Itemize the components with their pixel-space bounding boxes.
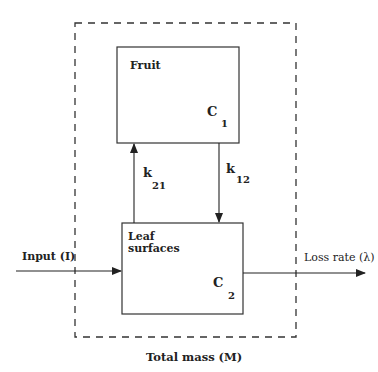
fruit-label: Fruit bbox=[130, 59, 161, 72]
leaf-symbol: C bbox=[213, 276, 223, 290]
total-mass-boundary bbox=[75, 23, 296, 337]
k12-index: 12 bbox=[236, 174, 250, 186]
fruit-index: 1 bbox=[221, 118, 228, 130]
total-mass-label: Total mass (M) bbox=[146, 351, 242, 364]
k21-symbol: k bbox=[143, 166, 152, 180]
leaf-label-line2: surfaces bbox=[128, 242, 180, 255]
k21-index: 21 bbox=[152, 180, 166, 192]
fruit-symbol: C bbox=[207, 105, 217, 119]
leaf-index: 2 bbox=[228, 290, 235, 302]
loss-label: Loss rate (λ) bbox=[304, 251, 375, 264]
diagram-canvas bbox=[0, 0, 378, 372]
input-label: Input (I) bbox=[22, 250, 75, 263]
k12-symbol: k bbox=[226, 162, 235, 176]
